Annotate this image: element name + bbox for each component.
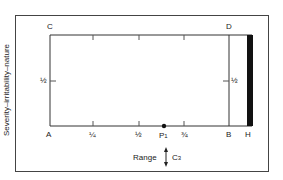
black-bar	[247, 35, 253, 126]
x-tick-quarter: ¼	[89, 131, 96, 139]
y-tick-half-left: ½	[40, 77, 47, 85]
bar-h-label: H	[245, 131, 251, 139]
range-label: Range	[133, 154, 157, 162]
corner-a-label: A	[46, 131, 51, 139]
point-p1	[162, 124, 166, 128]
corner-b-label: B	[226, 131, 231, 139]
range-c3-label: C3	[172, 154, 181, 162]
corner-d-label: D	[226, 23, 232, 31]
x-tick-three-quarter: ¾	[181, 131, 188, 139]
corner-c-label: C	[47, 23, 53, 31]
point-p1-label: P1	[159, 132, 168, 140]
y-tick-half-right: ½	[231, 77, 238, 85]
x-tick-half: ½	[135, 131, 142, 139]
